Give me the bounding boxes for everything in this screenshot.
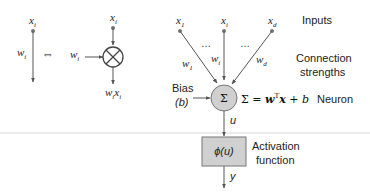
input-edge-d: [232, 31, 272, 84]
legend-activation-line1: Activation: [252, 140, 300, 152]
link-weight-label: wi: [17, 46, 26, 61]
multiplier-group: xi wi wixi: [70, 11, 123, 101]
input-label-d: xd: [267, 14, 277, 29]
equivalence-symbol: ⇔: [42, 47, 54, 61]
activation-label: ϕ(u): [214, 145, 234, 157]
ellipsis-left: …: [201, 38, 211, 49]
ellipsis-right: …: [240, 38, 250, 49]
output-label: y: [229, 170, 237, 182]
weight-label-i: wi: [211, 52, 220, 67]
neuron-inputs: x1 xi xd … … w1 wi wd: [175, 14, 277, 84]
multiplier-output-label: wixi: [105, 86, 121, 101]
multiplier-weight-label: wi: [70, 48, 79, 63]
weight-label-1: w1: [182, 57, 193, 72]
weight-link-group: xi wi: [17, 14, 36, 82]
bias-symbol: (b): [175, 96, 189, 108]
input-label-1: x1: [175, 14, 184, 29]
multiplier-input-label: xi: [109, 11, 117, 26]
bias-label: Bias: [172, 82, 194, 94]
neuron-diagram: xi wi ⇔ xi wi wixi x1 xi xd … … w1 wi wd: [0, 0, 370, 193]
input-label-i: xi: [220, 14, 228, 29]
legend-connection-line1: Connection: [296, 52, 352, 64]
sum-icon: Σ: [220, 92, 228, 105]
link-input-label: xi: [28, 14, 36, 29]
legend-neuron: Neuron: [317, 93, 353, 105]
neuron-equation: Σ = wTx + b: [241, 92, 309, 106]
weight-label-d: wd: [256, 53, 267, 68]
legend-connection-line2: strengths: [300, 66, 346, 78]
legend-activation-line2: function: [256, 154, 295, 166]
net-output-label: u: [230, 114, 236, 126]
legend-inputs: Inputs: [302, 14, 332, 26]
